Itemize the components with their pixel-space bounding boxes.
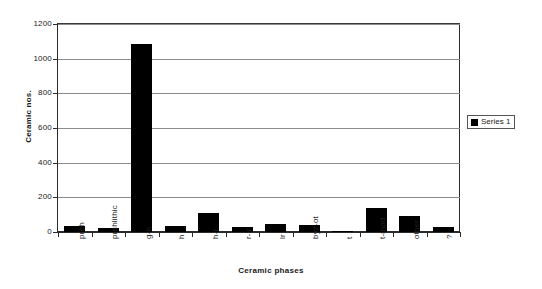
y-axis-tick xyxy=(53,128,57,129)
legend: Series 1 xyxy=(467,115,515,129)
y-axis-tick xyxy=(53,59,57,60)
x-axis-tick xyxy=(360,233,361,237)
bar xyxy=(265,224,286,232)
x-axis-tick-label: prehlithic xyxy=(111,205,119,239)
y-axis-tick xyxy=(53,93,57,94)
x-axis-tick-label: t-mod xyxy=(379,218,387,239)
y-axis-tick-label: 400 xyxy=(8,159,52,167)
x-axis-tick-label: h xyxy=(178,234,186,239)
y-axis-tick-label: 0 xyxy=(8,228,52,236)
y-axis-tick xyxy=(53,197,57,198)
x-axis-tick-label: g-h xyxy=(145,227,153,239)
x-axis-tick xyxy=(326,233,327,237)
y-axis-tick xyxy=(53,163,57,164)
y-axis-tick-label: 1200 xyxy=(8,20,52,28)
x-axis-title: Ceramic phases xyxy=(0,266,542,275)
x-axis-tick xyxy=(159,233,160,237)
y-axis-tick-label: 1000 xyxy=(8,55,52,63)
x-axis-tick-label: byz-ot xyxy=(312,216,320,239)
x-axis-tick xyxy=(192,233,193,237)
x-axis-tick-label: r-lr xyxy=(245,228,253,239)
x-axis-tick xyxy=(393,233,394,237)
x-axis-tick-label: h-r xyxy=(212,229,220,239)
x-axis-tick xyxy=(259,233,260,237)
x-axis-tick xyxy=(460,233,461,237)
y-axis-tick-label: 200 xyxy=(8,193,52,201)
y-axis-line xyxy=(57,23,58,233)
bar-chart: 020040060080010001200 Ceramic nos. prehp… xyxy=(0,0,542,289)
x-axis-tick-label: lr xyxy=(279,234,287,239)
x-axis-tick-label: ? xyxy=(446,234,454,239)
bars-layer xyxy=(58,24,460,232)
y-axis-title: Ceramic nos. xyxy=(24,77,33,157)
x-axis-tick xyxy=(125,233,126,237)
legend-label: Series 1 xyxy=(481,118,510,126)
x-axis-tick-label: preh xyxy=(78,222,86,239)
x-axis-tick xyxy=(293,233,294,237)
legend-swatch-icon xyxy=(471,119,478,126)
x-axis-tick xyxy=(427,233,428,237)
x-axis-tick xyxy=(226,233,227,237)
x-axis-tick xyxy=(58,233,59,237)
x-axis-tick-label: other xyxy=(413,220,421,239)
x-axis-tick xyxy=(92,233,93,237)
y-axis-tick xyxy=(53,232,57,233)
x-axis-tick-label: t xyxy=(346,237,354,239)
bar xyxy=(131,44,152,232)
y-axis-tick xyxy=(53,24,57,25)
